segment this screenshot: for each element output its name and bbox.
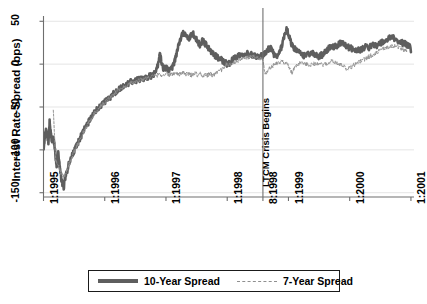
legend-swatch-solid-icon xyxy=(98,279,138,282)
legend-entry-7-year: 7-Year Spread xyxy=(237,275,353,287)
x-tick-label: 1:1996 xyxy=(109,171,121,204)
x-tick-label: 1:1997 xyxy=(170,171,182,204)
x-tick-label: 1:2001 xyxy=(415,171,427,204)
chart-legend: 10-Year Spread 7-Year Spread xyxy=(88,270,340,292)
y-tick-label: 0 xyxy=(9,43,21,83)
x-tick-label: 1:1999 xyxy=(293,171,305,204)
x-tick-label: 1:1998 xyxy=(232,171,244,204)
annotation-label: LTCM Crisis Begins xyxy=(260,98,271,187)
legend-entry-10-year: 10-Year Spread xyxy=(98,275,220,287)
y-tick-label: -150 xyxy=(9,172,21,212)
legend-swatch-dashed-icon xyxy=(237,281,277,282)
y-tick-label: -50 xyxy=(9,86,21,126)
legend-label-7-year: 7-Year Spread xyxy=(283,275,353,287)
legend-label-10-year: 10-Year Spread xyxy=(144,275,220,287)
y-tick-label: 50 xyxy=(9,0,21,40)
x-tick-label: 1:1995 xyxy=(48,171,60,204)
x-tick-label: 1:2000 xyxy=(354,171,366,204)
y-tick-label: -100 xyxy=(9,129,21,169)
